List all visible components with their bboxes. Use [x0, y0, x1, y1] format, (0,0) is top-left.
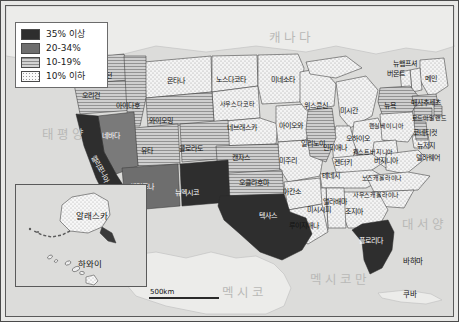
state-label: 노스다코타 [216, 76, 245, 84]
state-label: 버몬트 [387, 70, 404, 78]
state-label: 버지니아 [374, 157, 397, 165]
alaska-hawaii-inset: 알래스카 하와이 [15, 184, 147, 287]
state-label: 플로리다 [359, 237, 382, 245]
state-label: 네바다 [102, 132, 119, 140]
state-label: 유타 [141, 147, 153, 155]
state-label: 테네시 [322, 172, 339, 180]
legend-item: 10-19% [21, 55, 102, 69]
state-label: 와이오밍 [149, 117, 172, 125]
neighbor-label: 쿠바 [403, 291, 417, 299]
legend-swatch-35-plus [21, 29, 40, 40]
state-label: 조지아 [345, 208, 362, 216]
state-label: 오클라호마 [239, 179, 268, 187]
state-label: 아칸소 [283, 188, 300, 196]
state-label: 일리노이 [301, 140, 324, 148]
legend-item: 10% 이하 [21, 69, 102, 83]
state-label: 켄터키 [334, 159, 351, 167]
state-label: 사우스캐롤라이나 [353, 191, 399, 199]
inset-map [16, 185, 146, 286]
region-label: 멕시코 [222, 282, 267, 301]
state-label: 펜실베이니아 [369, 122, 404, 130]
state-label: 뉴저지 [417, 142, 434, 150]
state-label: 앨라배마 [323, 198, 346, 206]
state-label: 메인 [425, 75, 437, 83]
state-label: 콜로라도 [179, 145, 202, 153]
state-label: 아이다호 [116, 102, 139, 110]
scale-bar-line [149, 297, 219, 299]
inset-label-alaska: 알래스카 [76, 209, 108, 221]
legend-swatch-10-19 [21, 57, 40, 68]
state-label: 네브래스카 [227, 124, 256, 132]
state-label: 뉴멕시코 [175, 189, 198, 197]
state-label: 미네소타 [271, 76, 294, 84]
map-figure: 워싱턴오리건아이다호몬타나노스다코타미네소타사우스다코타와이오밍네브래스카아이오… [0, 0, 459, 322]
state-label: 몬타나 [167, 77, 184, 85]
legend-item: 35% 이상 [21, 27, 102, 41]
state-label: 뉴욕 [384, 102, 396, 110]
scale-bar-label: 500km [149, 288, 219, 296]
inset-label-hawaii: 하와이 [78, 257, 102, 269]
state-label: 웨스트버지니아 [353, 148, 394, 156]
state-label: 아이오와 [279, 122, 302, 130]
legend-swatch-under-10 [21, 71, 40, 82]
region-label: 태평양 [42, 124, 87, 143]
state-label: 뉴햄프셔 [393, 60, 416, 68]
region-label: 캐나다 [269, 27, 314, 46]
state-label: 텍사스 [259, 212, 276, 220]
state-label: 오하이오 [346, 135, 369, 143]
state-label: 위스콘신 [304, 102, 327, 110]
state-label: 루이지애나 [289, 222, 318, 230]
state-label: 오리건 [82, 92, 99, 100]
state-label: 델라웨어 [416, 154, 439, 162]
state-label: 노스캐롤라이나 [362, 174, 403, 182]
state-label: 캔자스 [232, 154, 249, 162]
legend-swatch-20-34 [21, 43, 40, 54]
neighbor-label: 바하마 [403, 258, 423, 266]
state-label: 인디애나 [323, 144, 346, 152]
state-label: 미주리 [279, 157, 296, 165]
region-label: 대서양 [402, 214, 447, 233]
legend-item: 20-34% [21, 41, 102, 55]
state-label: 로드아일랜드 [412, 114, 447, 122]
state-label: 미시간 [340, 107, 357, 115]
legend-label-under-10: 10% 이하 [46, 71, 85, 82]
map-legend: 35% 이상 20-34% 10-19% 10% 이하 [15, 22, 108, 88]
state-label: 코네티컷 [413, 129, 436, 137]
legend-label-10-19: 10-19% [46, 57, 81, 68]
state-label: 미시시피 [307, 206, 330, 214]
scale-bar: 500km [149, 288, 219, 299]
state-label: 매사추세츠 [411, 99, 440, 107]
aleutian-islands [34, 231, 70, 237]
legend-label-35-plus: 35% 이상 [46, 29, 85, 40]
state-label: 사우스다코타 [220, 100, 255, 108]
region-label: 멕시코만 [310, 269, 370, 288]
legend-label-20-34: 20-34% [46, 43, 81, 54]
